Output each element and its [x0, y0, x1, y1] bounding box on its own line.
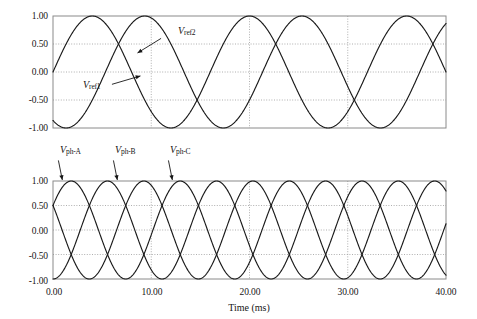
bottom-ytick-4: -0.50 — [8, 251, 48, 261]
xtick-3: 30.00 — [323, 287, 373, 297]
figure-root: 1.00 0.50 0.00 -0.50 -1.00 Vref2 Vref1 1… — [0, 0, 477, 319]
annotation-vref1: Vref1 — [83, 79, 100, 91]
top-ytick-1: 1.00 — [8, 11, 48, 21]
xtick-2: 20.00 — [225, 287, 275, 297]
annotation-vphb-subscript: ph-B — [121, 147, 135, 156]
top-ytick-5: -1.00 — [8, 123, 48, 133]
x-axis-title: Time (ms) — [189, 302, 309, 313]
annotation-vphb: Vph-B — [115, 144, 135, 156]
phase-waveforms-svg — [0, 160, 477, 285]
panel-phase-waveforms — [0, 160, 477, 285]
annotation-vpha: Vph-A — [60, 144, 81, 156]
bottom-ytick-3: 0.00 — [8, 226, 48, 236]
xtick-4: 40.00 — [421, 287, 471, 297]
annotation-vpha-subscript: ph-A — [66, 147, 81, 156]
top-ytick-2: 0.50 — [8, 39, 48, 49]
annotation-vref1-subscript: ref1 — [89, 82, 100, 91]
annotation-vphc: Vph-C — [170, 144, 190, 156]
panel-reference-waveforms — [0, 0, 477, 145]
bottom-ytick-2: 0.50 — [8, 201, 48, 211]
top-ytick-3: 0.00 — [8, 67, 48, 77]
bottom-ytick-5: -1.00 — [8, 276, 48, 286]
xtick-0: 0.00 — [29, 287, 79, 297]
annotation-vphc-subscript: ph-C — [176, 147, 190, 156]
annotation-vref2-subscript: ref2 — [184, 28, 195, 37]
annotation-vref2: Vref2 — [178, 25, 195, 37]
xtick-1: 10.00 — [127, 287, 177, 297]
top-ytick-4: -0.50 — [8, 95, 48, 105]
reference-waveforms-svg — [0, 0, 477, 145]
bottom-ytick-1: 1.00 — [8, 176, 48, 186]
